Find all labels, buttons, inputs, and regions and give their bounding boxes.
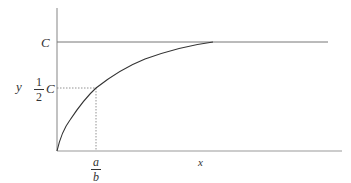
y-axis-label: y (16, 80, 22, 93)
ab-fraction: a b (91, 156, 101, 183)
ab-den: b (91, 170, 101, 183)
half-c-label: C (46, 82, 55, 95)
ab-num: a (91, 156, 101, 170)
curve (57, 42, 213, 151)
half-num: 1 (34, 76, 44, 90)
c-label: C (41, 36, 50, 49)
half-fraction: 1 2 (34, 76, 44, 103)
x-axis-label: x (198, 157, 203, 168)
half-den: 2 (34, 90, 44, 103)
